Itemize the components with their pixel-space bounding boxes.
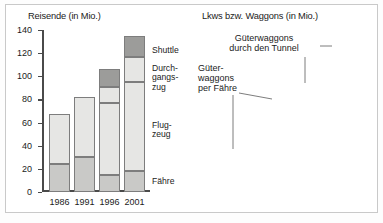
- segment-shuttle: [124, 36, 145, 57]
- y-tick-120: 120: [38, 53, 42, 54]
- segment-flugzeug: [124, 82, 145, 171]
- segment-faehre: [124, 171, 145, 192]
- y-tick-140: 140: [38, 30, 42, 31]
- segment-flugzeug: [74, 97, 95, 157]
- segment-durchgangszug: [124, 57, 145, 83]
- y-tick-40: 40: [38, 146, 42, 147]
- y-tick-60: 60: [38, 123, 42, 124]
- legend-flugzeug: Flug- zeug: [152, 121, 172, 140]
- x-label-1996: 1996: [99, 197, 119, 207]
- segment-flugzeug: [99, 103, 120, 175]
- annotation-gueterwaggons-faehre: Güter- waggons per Fähre: [198, 63, 268, 93]
- y-tick-0: 0: [38, 192, 42, 193]
- segment-flugzeug: [49, 114, 70, 164]
- figure-root: Reisende (in Mio.) 140 120 100 80 60 40: [0, 0, 383, 223]
- segment-shuttle: [99, 69, 120, 86]
- segment-faehre: [99, 175, 120, 192]
- y-tick-20: 20: [38, 169, 42, 170]
- legend-faehre: Fähre: [152, 177, 174, 186]
- x-label-1986: 1986: [49, 197, 69, 207]
- plot-area-reisende: 140 120 100 80 60 40 20 0: [42, 30, 146, 192]
- panel-reisende: Reisende (in Mio.) 140 120 100 80 60 40: [6, 5, 192, 214]
- segment-faehre: [74, 157, 95, 192]
- legend-durchgangszug: Durch- gangs- zug: [152, 64, 178, 92]
- panel-title-reisende: Reisende (in Mio.): [28, 11, 101, 21]
- y-axis-reisende: [42, 30, 44, 192]
- x-label-1991: 1991: [74, 197, 94, 207]
- x-label-2001: 2001: [124, 197, 144, 207]
- panel-lkws-waggons: Lkws bzw. Waggons (in Mio.) 6 5 4 3 2 1: [192, 5, 379, 214]
- segment-faehre: [49, 164, 70, 192]
- y-tick-80: 80: [38, 99, 42, 100]
- y-tick-100: 100: [38, 76, 42, 77]
- figure-frame: Reisende (in Mio.) 140 120 100 80 60 40: [5, 4, 378, 213]
- leader-lines: [192, 5, 379, 214]
- segment-durchgangszug: [99, 87, 120, 103]
- legend-shuttle: Shuttle: [152, 46, 179, 55]
